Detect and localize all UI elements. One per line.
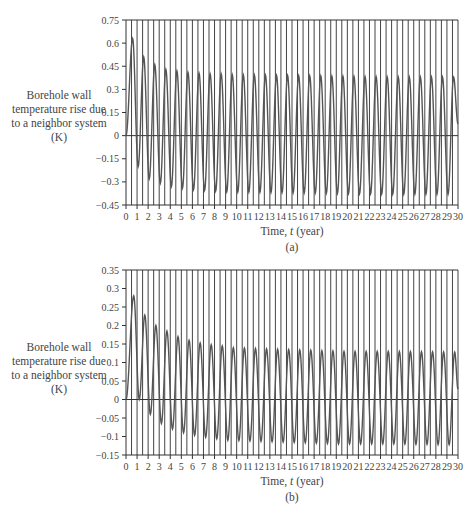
x-tick-label: 30	[453, 211, 463, 222]
y-tick-label: 0.25	[102, 302, 120, 313]
y-tick-label: 0.6	[107, 38, 120, 49]
y-tick-label: −0.45	[96, 200, 119, 211]
x-tick-label: 29	[442, 461, 452, 472]
x-tick-label: 21	[353, 211, 363, 222]
x-tick-label: 9	[223, 211, 228, 222]
x-tick-label: 11	[243, 461, 253, 472]
x-tick-label: 22	[364, 461, 374, 472]
x-tick-label: 11	[243, 211, 253, 222]
x-tick-label: 6	[190, 461, 195, 472]
x-tick-label: 13	[265, 461, 275, 472]
y-tick-label: 0.1	[107, 357, 120, 368]
x-tick-label: 19	[331, 461, 341, 472]
x-tick-label: 25	[398, 461, 408, 472]
x-tick-label: 21	[353, 461, 363, 472]
y-tick-label: 0	[114, 130, 119, 141]
x-tick-label: 22	[364, 211, 374, 222]
x-tick-label: 23	[376, 461, 386, 472]
x-tick-label: 1	[135, 211, 140, 222]
y-tick-label: −0.05	[96, 413, 119, 424]
x-tick-label: 16	[298, 211, 308, 222]
x-tick-label: 14	[276, 211, 286, 222]
x-tick-label: 27	[420, 461, 430, 472]
x-tick-label: 15	[287, 461, 297, 472]
x-tick-label: 20	[342, 211, 352, 222]
y-tick-label: 0.05	[102, 376, 120, 387]
x-axis-title: Time, t (year)	[260, 225, 323, 238]
chart-panel-b: 0.350.30.250.20.150.10.050−0.05−0.1−0.15…	[96, 265, 463, 505]
x-tick-label: 19	[331, 211, 341, 222]
y-tick-label: −0.1	[101, 431, 119, 442]
x-tick-label: 4	[168, 211, 173, 222]
x-tick-label: 24	[387, 461, 397, 472]
y-tick-label: −0.15	[96, 153, 119, 164]
x-tick-label: 29	[442, 211, 452, 222]
x-tick-label: 27	[420, 211, 430, 222]
x-tick-label: 25	[398, 211, 408, 222]
x-tick-label: 5	[179, 211, 184, 222]
x-axis-title: Time, t (year)	[260, 475, 323, 488]
y-tick-label: 0.2	[107, 320, 120, 331]
x-tick-label: 14	[276, 461, 286, 472]
x-tick-label: 7	[201, 461, 206, 472]
y-tick-label: 0.35	[102, 265, 120, 276]
x-tick-label: 18	[320, 461, 330, 472]
y-tick-label: −0.3	[101, 176, 119, 187]
x-tick-label: 23	[376, 211, 386, 222]
y-axis-ticks: 0.350.30.250.20.150.10.050−0.05−0.1−0.15	[96, 265, 126, 461]
x-tick-label: 12	[254, 461, 264, 472]
x-tick-label: 0	[124, 211, 129, 222]
x-tick-label: 10	[232, 211, 242, 222]
x-tick-label: 13	[265, 211, 275, 222]
x-tick-label: 28	[431, 461, 441, 472]
chart-canvas: 0.750.60.450.30.150−0.15−0.3−0.450123456…	[0, 0, 474, 511]
x-tick-label: 4	[168, 461, 173, 472]
x-tick-label: 15	[287, 211, 297, 222]
x-tick-label: 8	[212, 211, 217, 222]
y-tick-label: −0.15	[96, 450, 119, 461]
x-axis-ticks: 0123456789101112131415161718192021222324…	[124, 455, 464, 472]
y-tick-label: 0.45	[102, 61, 120, 72]
x-tick-label: 0	[124, 461, 129, 472]
x-tick-label: 17	[309, 211, 319, 222]
y-tick-label: 0.15	[102, 339, 120, 350]
x-tick-label: 8	[212, 461, 217, 472]
y-tick-label: 0.3	[107, 84, 120, 95]
x-tick-label: 24	[387, 211, 397, 222]
x-tick-label: 28	[431, 211, 441, 222]
y-tick-label: 0.3	[107, 283, 120, 294]
x-tick-label: 26	[409, 461, 419, 472]
x-tick-label: 12	[254, 211, 264, 222]
x-tick-label: 20	[342, 461, 352, 472]
x-tick-label: 6	[190, 211, 195, 222]
chart-panel-a: 0.750.60.450.30.150−0.15−0.3−0.450123456…	[96, 15, 463, 255]
x-tick-label: 3	[157, 461, 162, 472]
x-tick-label: 7	[201, 211, 206, 222]
x-tick-label: 26	[409, 211, 419, 222]
x-tick-label: 3	[157, 211, 162, 222]
x-tick-label: 2	[146, 461, 151, 472]
x-tick-label: 16	[298, 461, 308, 472]
x-tick-label: 10	[232, 461, 242, 472]
y-tick-label: 0.15	[102, 107, 120, 118]
y-tick-label: 0	[114, 394, 119, 405]
x-tick-label: 9	[223, 461, 228, 472]
x-tick-label: 5	[179, 461, 184, 472]
y-axis-ticks: 0.750.60.450.30.150−0.15−0.3−0.45	[96, 15, 126, 211]
x-tick-label: 2	[146, 211, 151, 222]
x-tick-label: 17	[309, 461, 319, 472]
x-tick-label: 18	[320, 211, 330, 222]
x-tick-label: 1	[135, 461, 140, 472]
panel-caption: (a)	[286, 241, 299, 254]
panel-caption: (b)	[285, 491, 299, 504]
x-tick-label: 30	[453, 461, 463, 472]
x-axis-ticks: 0123456789101112131415161718192021222324…	[124, 205, 464, 222]
y-tick-label: 0.75	[102, 15, 120, 26]
